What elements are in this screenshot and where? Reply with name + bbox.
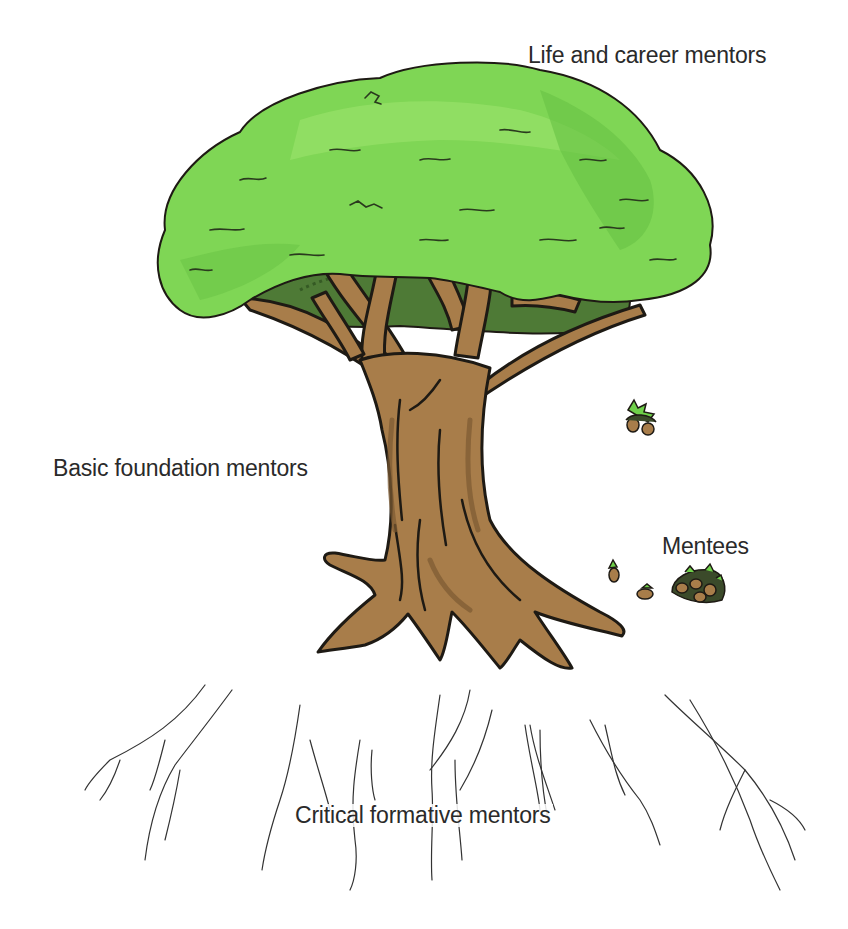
- acorn-cluster-top: [626, 400, 656, 435]
- label-basic-foundation-mentors: Basic foundation mentors: [53, 457, 308, 480]
- formative-roots: [85, 685, 805, 890]
- mentee-acorns: [609, 400, 725, 602]
- label-life-and-career-mentors: Life and career mentors: [528, 44, 766, 67]
- canopy: [158, 62, 713, 317]
- acorn-small-pair: [637, 584, 653, 599]
- label-mentees: Mentees: [662, 535, 749, 558]
- acorn-single: [609, 560, 619, 582]
- acorn-pile: [672, 564, 725, 602]
- label-critical-formative-mentors: Critical formative mentors: [293, 804, 553, 827]
